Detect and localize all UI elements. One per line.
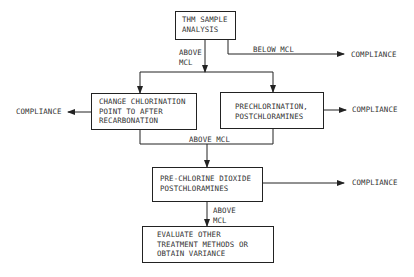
node-evaluate-label: EVALUATE OTHER TREATMENT METHODS OR OBTA… (157, 230, 248, 259)
edge-label-above-mcl-3: ABOVE MCL (213, 206, 236, 225)
node-dioxide-label: PRE-CHLORINE DIOXIDE POSTCHLORAMINES (160, 174, 251, 193)
node-change-label: CHANGE CHLORINATION POINT TO AFTER RECAR… (99, 97, 185, 126)
outcome-compliance-2: COMPLIANCE (16, 107, 62, 117)
node-prechlor-label: PRECHLORINATION, POSTCHLORAMINES (235, 102, 308, 121)
edge-label-below-mcl: BELOW MCL (253, 45, 294, 55)
outcome-compliance-3: COMPLIANCE (352, 105, 398, 115)
outcome-compliance-1: COMPLIANCE (351, 50, 397, 60)
flowchart: THM SAMPLE ANALYSIS CHANGE CHLORINATION … (0, 0, 414, 277)
outcome-compliance-4: COMPLIANCE (352, 178, 398, 188)
edge-label-above-mcl-2: ABOVE MCL (189, 135, 230, 145)
edge-label-above-mcl-1: ABOVE MCL (179, 48, 202, 67)
node-thm-label: THM SAMPLE ANALYSIS (182, 15, 228, 34)
